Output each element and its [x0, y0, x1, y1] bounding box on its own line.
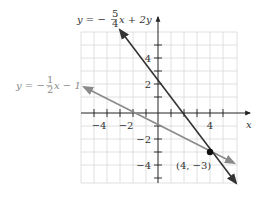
eq2-prefix: y = − — [15, 80, 45, 91]
x-axis-label: x — [246, 119, 252, 130]
intersection-label: (4, −3) — [176, 160, 211, 171]
tick-label-y-4: 4 — [145, 53, 151, 64]
tick-label-y-2: 2 — [145, 79, 151, 90]
eq2-suffix: x − 1 — [54, 80, 81, 91]
graph: −4 −2 4 4 2 −2 −4 x y (4, −3) y = − 5 4 … — [0, 0, 264, 205]
eq1-prefix: y = − — [76, 14, 106, 25]
tick-label-x-neg2: −2 — [119, 120, 134, 131]
equation-label-1: y = − 5 4 x + 2 — [76, 8, 146, 29]
eq2-denominator: 2 — [47, 84, 53, 95]
equation-label-2: y = − 1 2 x − 1 — [15, 74, 81, 95]
intersection-point — [207, 149, 213, 155]
grid — [81, 32, 237, 183]
tick-label-y-neg4: −4 — [136, 160, 151, 171]
tick-label-x-4: 4 — [207, 120, 213, 131]
tick-label-y-neg2: −2 — [136, 134, 151, 145]
tick-label-x-neg4: −4 — [92, 120, 107, 131]
eq1-suffix: x + 2 — [119, 14, 146, 25]
y-axis-label: y — [145, 14, 152, 25]
eq1-denominator: 4 — [112, 18, 118, 29]
